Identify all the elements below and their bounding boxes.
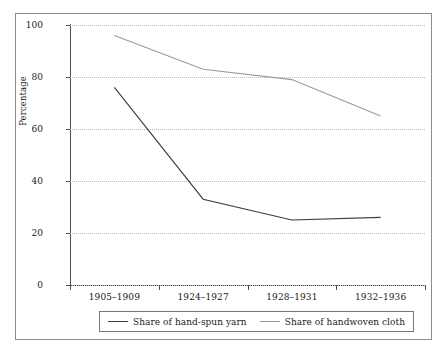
y-gridline [70,25,425,26]
legend-label-hand-spun-yarn: Share of hand-spun yarn [133,317,247,327]
y-tick-label: 20 [3,228,43,238]
y-gridline [70,129,425,130]
x-tick-mark [159,285,160,290]
y-gridline [70,181,425,182]
legend-entry-hand-spun-yarn: Share of hand-spun yarn [108,317,247,327]
y-tick-mark [66,129,70,130]
y-tick-label: 60 [3,124,43,134]
y-tick-label: 40 [3,176,43,186]
x-tick-label: 1932–1936 [326,292,436,302]
y-tick-label: 0 [3,280,43,290]
y-tick-mark [66,25,70,26]
x-tick-mark [336,285,337,290]
y-tick-label: 80 [3,72,43,82]
legend-swatch-handwoven-cloth [260,321,280,322]
y-tick-mark [66,233,70,234]
x-tick-mark [248,285,249,290]
chart-figure: Percentage 020406080100 1905–19091924–19… [0,0,446,352]
y-axis-title: Percentage [18,41,28,161]
y-tick-mark [66,181,70,182]
y-gridline [70,77,425,78]
y-tick-mark [66,77,70,78]
x-tick-mark [70,285,71,290]
legend-entry-handwoven-cloth: Share of handwoven cloth [260,317,405,327]
chart-legend: Share of hand-spun yarn Share of handwov… [99,311,414,332]
x-tick-mark [425,285,426,290]
legend-swatch-hand-spun-yarn [108,321,128,322]
y-gridline [70,233,425,234]
y-tick-label: 100 [3,20,43,30]
plot-area: 020406080100 [70,25,425,285]
legend-label-handwoven-cloth: Share of handwoven cloth [285,317,405,327]
